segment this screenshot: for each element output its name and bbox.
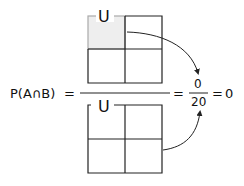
arrow-to-denominator-icon — [163, 112, 200, 150]
equals-sign-1: = — [64, 86, 75, 101]
denominator-value: 20 — [191, 95, 206, 109]
lhs-expression: P(A∩B) — [10, 86, 55, 101]
equals-sign-3: = — [212, 86, 223, 101]
top-grid-label: U — [98, 7, 110, 26]
bottom-grid-label: U — [98, 97, 110, 116]
numerator-value: 0 — [194, 77, 202, 91]
equals-sign-2: = — [173, 86, 184, 101]
result-value: 0 — [225, 86, 233, 101]
probability-diagram: U U P(A∩B) = = 0 20 = 0 — [0, 0, 244, 186]
